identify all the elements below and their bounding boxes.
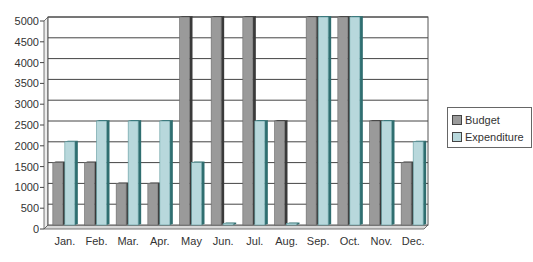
y-tick-label: 2500	[15, 119, 39, 131]
bar-budget-dec	[401, 162, 414, 225]
bar-expenditure-jun	[223, 223, 236, 226]
bar-budget-jun	[211, 16, 224, 225]
bar-budget-nov	[370, 120, 383, 225]
y-tick-label: 4000	[15, 57, 39, 69]
bar-budget-sep	[306, 16, 319, 225]
x-tick-label: Dec.	[402, 235, 425, 247]
y-tick-label: 3500	[15, 77, 39, 89]
expenditure-swatch	[452, 132, 462, 142]
x-tick-label: Nov.	[371, 235, 393, 247]
budget-swatch	[452, 115, 462, 125]
bar-expenditure-apr	[160, 120, 173, 225]
bar-expenditure-nov	[382, 120, 395, 225]
bar-budget-oct	[338, 16, 351, 225]
bar-budget-aug	[275, 120, 288, 225]
bar-expenditure-may	[192, 162, 205, 225]
bar-budget-jul	[243, 16, 256, 225]
y-tick-label: 0	[33, 223, 39, 235]
chart-legend: Budget Expenditure	[447, 107, 532, 148]
x-tick-label: Feb.	[85, 235, 107, 247]
bar-expenditure-jan	[65, 141, 78, 225]
bar-budget-may	[180, 16, 193, 225]
x-tick-label: Mar.	[117, 235, 138, 247]
legend-label-budget: Budget	[465, 114, 500, 126]
legend-item-budget: Budget	[452, 111, 527, 128]
y-tick-label: 500	[21, 202, 39, 214]
left-wall	[44, 17, 48, 229]
bar-expenditure-sep	[318, 16, 331, 225]
bar-expenditure-mar	[128, 120, 141, 225]
x-tick-label: Jun.	[213, 235, 234, 247]
bar-expenditure-aug	[287, 223, 300, 226]
x-tick-label: Jul.	[246, 235, 263, 247]
bar-expenditure-dec	[413, 141, 426, 225]
bar-expenditure-jul	[255, 120, 268, 225]
x-tick-label: May	[181, 235, 202, 247]
legend-label-expenditure: Expenditure	[465, 131, 524, 143]
y-tick-label: 1500	[15, 161, 39, 173]
y-tick-label: 2000	[15, 140, 39, 152]
bar-expenditure-feb	[97, 120, 110, 225]
x-tick-label: Oct.	[340, 235, 360, 247]
x-tick-label: Jan.	[54, 235, 75, 247]
bar-expenditure-oct	[350, 16, 363, 225]
legend-item-expenditure: Expenditure	[452, 128, 527, 145]
y-tick-label: 1000	[15, 181, 39, 193]
bar-budget-jan	[53, 162, 66, 225]
bar-budget-feb	[85, 162, 98, 225]
y-tick-label: 3000	[15, 98, 39, 110]
y-tick-label: 5000	[15, 15, 39, 27]
bar-budget-apr	[148, 182, 161, 225]
x-tick-label: Aug.	[275, 235, 298, 247]
chart-floor	[44, 225, 428, 229]
x-tick-label: Apr.	[150, 235, 170, 247]
x-tick-label: Sep.	[307, 235, 330, 247]
bar-budget-mar	[116, 182, 129, 225]
y-tick-label: 4500	[15, 36, 39, 48]
